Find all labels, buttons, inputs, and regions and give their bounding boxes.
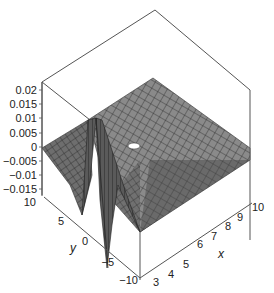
z-tick-label: 0.015 (9, 98, 37, 110)
z-tick-label: 0 (31, 141, 37, 153)
x-tick-label: 6 (197, 238, 203, 250)
x-tick-label: 7 (211, 230, 217, 242)
z-tick-label: −0.015 (3, 183, 37, 195)
y-tick-label: −5 (101, 256, 114, 268)
z-tick-label: 0.02 (16, 84, 37, 96)
x-tick-label: 8 (225, 220, 231, 232)
x-tick-label: 5 (183, 258, 189, 270)
y-tick-label: 0 (82, 235, 88, 247)
surface-plot: 0.02 0.015 0.01 0.005 0 −0.005 −0.01 −0.… (0, 0, 274, 293)
x-tick-label: 4 (168, 268, 174, 280)
x-tick-label: 9 (237, 211, 243, 223)
singularity-hole (128, 143, 140, 149)
z-tick-label: 0.005 (9, 127, 37, 139)
y-tick-label: 10 (24, 196, 36, 208)
z-axis: 0.02 0.015 0.01 0.005 0 −0.005 −0.01 −0.… (3, 82, 42, 196)
z-tick-label: 0.01 (16, 112, 37, 124)
y-tick-label: −10 (119, 274, 138, 286)
x-tick-label: 3 (153, 276, 159, 288)
z-tick-label: −0.005 (3, 155, 37, 167)
y-tick-label: 5 (58, 215, 64, 227)
z-tick-label: −0.01 (9, 169, 37, 181)
y-axis-label: y (69, 241, 77, 255)
x-tick-label: 10 (252, 201, 264, 213)
x-axis-label: x (217, 247, 225, 261)
